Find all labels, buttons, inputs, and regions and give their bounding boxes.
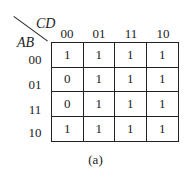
col-header: 01 xyxy=(83,26,115,42)
kmap-cell: 1 xyxy=(84,117,116,142)
kmap-cell: 1 xyxy=(52,117,84,142)
kmap-cell: 1 xyxy=(115,117,147,142)
kmap-cell: 0 xyxy=(52,92,84,117)
kmap-cell: 1 xyxy=(115,43,147,68)
col-header: 00 xyxy=(51,26,83,42)
row-header: 01 xyxy=(22,77,48,93)
kmap-cell: 1 xyxy=(52,43,84,68)
kmap-cell: 1 xyxy=(147,43,179,68)
col-header: 11 xyxy=(115,26,147,42)
row-header: 11 xyxy=(22,102,48,118)
figure-caption: (a) xyxy=(0,152,191,168)
kmap-cell: 0 xyxy=(52,68,84,93)
kmap-grid: 1 1 1 1 0 1 1 1 0 1 1 1 1 1 1 1 xyxy=(51,42,179,142)
kmap-cell: 1 xyxy=(84,68,116,93)
row-header: 10 xyxy=(22,125,48,141)
kmap-cell: 1 xyxy=(147,92,179,117)
kmap-cell: 1 xyxy=(147,68,179,93)
col-header: 10 xyxy=(147,26,179,42)
kmap-cell: 1 xyxy=(84,92,116,117)
kmap-cell: 1 xyxy=(147,117,179,142)
row-variable-label: AB xyxy=(17,35,34,51)
row-header: 00 xyxy=(22,52,48,68)
kmap-cell: 1 xyxy=(115,68,147,93)
kmap-cell: 1 xyxy=(115,92,147,117)
kmap-cell: 1 xyxy=(84,43,116,68)
